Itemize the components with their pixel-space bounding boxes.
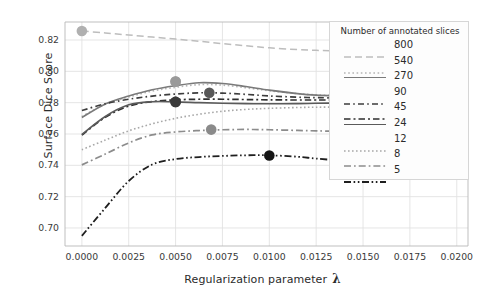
legend-label-5: 5 <box>394 164 400 175</box>
y-tick-label: 0.74 <box>29 159 59 170</box>
legend: Number of annotated slices 8005402709045… <box>329 21 469 180</box>
legend-item-800[interactable]: 800 <box>330 39 470 54</box>
y-tick-label: 0.78 <box>29 97 59 108</box>
x-tick-label: 0.0175 <box>385 251 435 262</box>
series-marker-800 <box>77 26 88 37</box>
legend-label-24: 24 <box>394 117 407 128</box>
x-tick-label: 0.0150 <box>338 251 388 262</box>
legend-swatch-800 <box>344 44 386 46</box>
legend-item-12[interactable]: 12 <box>330 133 470 148</box>
legend-swatch-540 <box>344 60 386 62</box>
legend-item-5[interactable]: 5 <box>330 164 470 179</box>
legend-item-270[interactable]: 270 <box>330 70 470 85</box>
legend-swatch-8 <box>344 153 386 155</box>
legend-item-8[interactable]: 8 <box>330 148 470 163</box>
legend-swatch-5 <box>344 169 386 171</box>
legend-line-sample-5 <box>344 180 386 184</box>
x-tick-label: 0.0200 <box>432 251 479 262</box>
series-marker-90 <box>204 88 215 99</box>
legend-label-90: 90 <box>394 86 407 97</box>
series-marker-270 <box>170 76 181 87</box>
x-axis-label: Regularization parameter <box>184 273 327 286</box>
legend-swatch-24 <box>344 124 386 125</box>
series-marker-24 <box>170 97 181 108</box>
x-axis-label-symbol: λ <box>332 272 341 286</box>
y-tick-label: 0.82 <box>29 34 59 45</box>
legend-item-90[interactable]: 90 <box>330 86 470 101</box>
legend-swatch-45 <box>344 106 386 108</box>
x-tick-label: 0.0100 <box>244 251 294 262</box>
legend-swatch-90 <box>344 91 386 93</box>
legend-label-270: 270 <box>394 70 413 81</box>
x-tick-label: 0.0125 <box>291 251 341 262</box>
legend-item-45[interactable]: 45 <box>330 101 470 116</box>
legend-label-8: 8 <box>394 148 400 159</box>
y-tick-label: 0.72 <box>29 191 59 202</box>
legend-label-540: 540 <box>394 55 413 66</box>
x-axis-label-wrapper: Regularization parameter λ <box>60 268 465 287</box>
x-tick-label: 0.0025 <box>104 251 154 262</box>
y-tick-label: 0.80 <box>29 65 59 76</box>
legend-swatch-12 <box>344 138 386 140</box>
figure-container: Surface Dice Score Regularization parame… <box>0 0 479 292</box>
x-tick-label: 0.0000 <box>57 251 107 262</box>
legend-title: Number of annotated slices <box>330 26 470 36</box>
x-tick-label: 0.0075 <box>197 251 247 262</box>
legend-item-540[interactable]: 540 <box>330 55 470 70</box>
legend-label-12: 12 <box>394 133 407 144</box>
x-tick-label: 0.0050 <box>151 251 201 262</box>
y-tick-label: 0.76 <box>29 128 59 139</box>
series-marker-5 <box>264 150 275 161</box>
legend-label-800: 800 <box>394 39 413 50</box>
series-marker-8 <box>206 124 217 135</box>
legend-label-45: 45 <box>394 101 407 112</box>
y-tick-label: 0.70 <box>29 222 59 233</box>
legend-swatch-270 <box>344 77 386 78</box>
legend-item-24[interactable]: 24 <box>330 117 470 132</box>
